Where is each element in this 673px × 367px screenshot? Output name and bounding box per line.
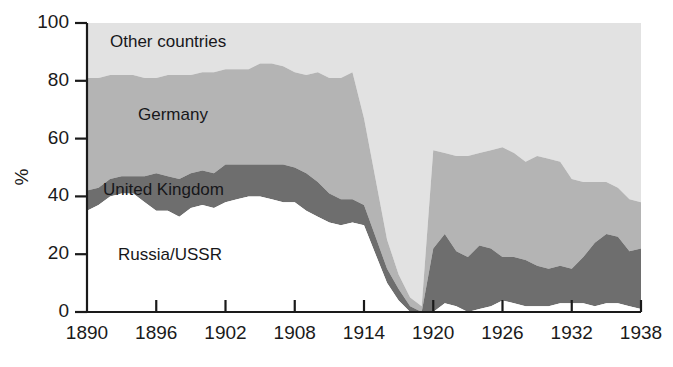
y-tick-label: 100	[23, 11, 69, 33]
x-tick-label: 1920	[398, 322, 468, 344]
x-tick-label: 1938	[606, 322, 673, 344]
x-tick-label: 1902	[191, 322, 261, 344]
x-tick-label: 1890	[52, 322, 122, 344]
y-tick-label: 80	[23, 69, 69, 91]
series-label-russia-ussr: Russia/USSR	[118, 245, 222, 265]
x-tick-label: 1926	[468, 322, 538, 344]
series-label-germany: Germany	[138, 105, 208, 125]
stacked-area-chart: % 020406080100 1890189619021908191419201…	[0, 0, 673, 367]
y-tick-label: 20	[23, 242, 69, 264]
y-tick-label: 40	[23, 184, 69, 206]
area-series-group	[87, 23, 641, 312]
y-tick-label: 0	[23, 300, 69, 322]
chart-canvas	[0, 0, 673, 367]
x-tick-label: 1896	[121, 322, 191, 344]
x-tick-label: 1908	[260, 322, 330, 344]
series-label-united-kingdom: United Kingdom	[103, 180, 224, 200]
x-tick-label: 1914	[329, 322, 399, 344]
y-axis-title: %	[11, 169, 33, 186]
y-tick-label: 60	[23, 127, 69, 149]
x-tick-label: 1932	[537, 322, 607, 344]
series-label-other-countries: Other countries	[110, 32, 226, 52]
